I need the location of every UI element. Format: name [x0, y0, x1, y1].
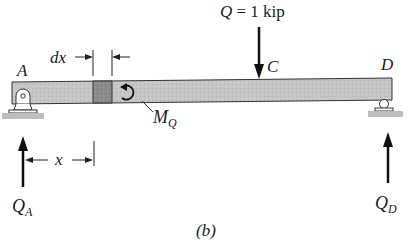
- reaction-a-label: QA: [12, 196, 33, 219]
- beam-diagram: dx MQ A C D Q = 1 kip QA: [0, 0, 413, 246]
- load-label: Q = 1 kip: [220, 2, 285, 21]
- x-dimension: x: [25, 141, 94, 169]
- reaction-a-arrow-icon: [18, 136, 28, 187]
- point-a-label: A: [16, 61, 28, 80]
- dx-dimension: dx: [50, 48, 130, 76]
- x-label: x: [54, 150, 63, 169]
- reaction-d-label: QD: [375, 193, 397, 216]
- moment-label: MQ: [152, 107, 177, 130]
- reaction-d-arrow-icon: [383, 132, 393, 183]
- dx-label: dx: [50, 48, 67, 67]
- beam: [12, 78, 392, 104]
- point-c-label: C: [267, 57, 279, 76]
- point-d-label: D: [380, 55, 394, 74]
- load-arrow-icon: [254, 27, 264, 79]
- figure-caption: (b): [196, 221, 216, 240]
- differential-element: [93, 81, 112, 103]
- roller-support-icon: [368, 100, 403, 118]
